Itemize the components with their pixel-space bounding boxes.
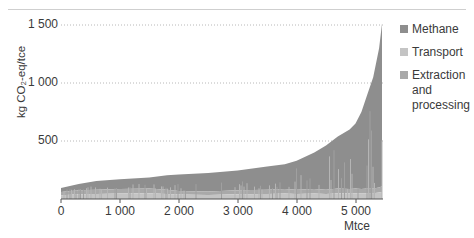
legend-swatch-extraction <box>400 71 408 79</box>
x-tick-3000: 3 000 <box>213 204 263 218</box>
legend-label: Methane <box>412 22 474 37</box>
x-tick-2000: 2 000 <box>154 204 204 218</box>
stacked-areas <box>61 24 382 199</box>
x-axis-title: Mtce <box>344 219 370 233</box>
x-tick-0: 0 <box>36 204 86 218</box>
legend-item-transport: Transport <box>400 45 474 60</box>
legend-swatch-transport <box>400 48 408 56</box>
x-tick-1000: 1 000 <box>95 204 145 218</box>
legend-item-methane: Methane <box>400 22 474 37</box>
legend-swatch-methane <box>400 25 408 33</box>
x-tick-5000: 5 000 <box>331 204 381 218</box>
legend-item-extraction: Extraction and processing <box>400 68 474 113</box>
legend-label: Transport <box>412 45 474 60</box>
legend-label: Extraction and processing <box>412 68 474 113</box>
x-tick-marks <box>61 199 356 203</box>
gridlines <box>61 25 383 141</box>
legend: Methane Transport Extraction and process… <box>400 22 474 121</box>
x-tick-4000: 4 000 <box>272 204 322 218</box>
